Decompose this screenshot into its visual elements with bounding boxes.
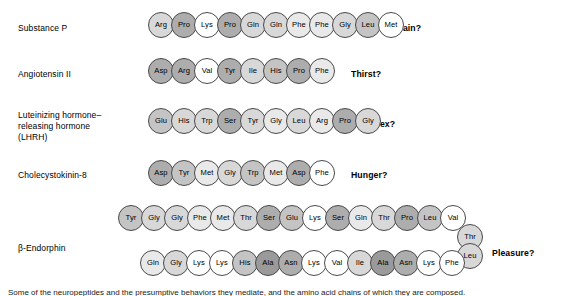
peptide-label-cholecystokinin-8: Cholecystokinin-8 — [18, 170, 87, 181]
amino-acid-gly: Gly — [355, 108, 381, 134]
peptide-label-angiotensin-ii: Angiotensin II — [18, 69, 71, 80]
neuropeptide-figure: Substance PPain?ArgProLysProGlnGlnPhePhe… — [0, 0, 574, 296]
function-label-cholecystokinin-8: Hunger? — [351, 170, 387, 180]
peptide-label-beta-endorphin: β-Endorphin — [18, 243, 66, 254]
amino-acid-phe: Phe — [439, 250, 465, 276]
peptide-label-substance-p: Substance P — [18, 23, 67, 34]
function-label-angiotensin-ii: Thirst? — [351, 69, 381, 79]
amino-acid-phe: Phe — [309, 58, 335, 84]
amino-acid-phe: Phe — [309, 160, 335, 186]
peptide-label-lhrh: Luteinizing hormone– releasing hormone (… — [18, 110, 101, 143]
function-label-beta-endorphin: Pleasure? — [492, 248, 534, 258]
figure-caption: Some of the neuropeptides and the presum… — [8, 288, 568, 296]
amino-acid-met: Met — [378, 12, 404, 38]
